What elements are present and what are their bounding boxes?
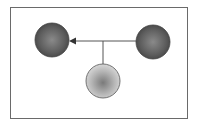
diagram-canvas bbox=[0, 0, 199, 122]
node-left bbox=[35, 23, 69, 57]
arrowhead-icon bbox=[69, 38, 76, 45]
node-right bbox=[136, 25, 170, 59]
node-bottom bbox=[86, 64, 120, 98]
